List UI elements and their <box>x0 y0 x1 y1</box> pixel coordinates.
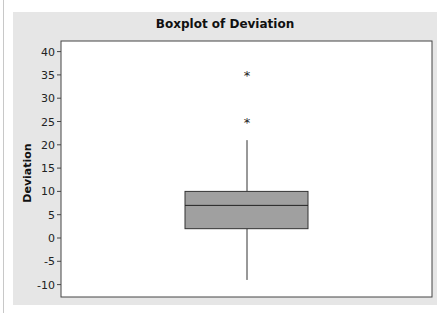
outlier-marker: * <box>244 115 251 130</box>
y-tick-label: 20 <box>41 139 55 152</box>
y-tick-label: 40 <box>41 46 55 59</box>
y-tick-label: 25 <box>41 116 55 129</box>
y-tick-label: -10 <box>37 279 55 292</box>
boxplot-chart: 4035302520151050-5-10 ** <box>0 0 444 313</box>
y-tick-label: -5 <box>44 255 55 268</box>
y-axis: 4035302520151050-5-10 <box>37 46 61 292</box>
y-tick-label: 10 <box>41 185 55 198</box>
outlier-marker: * <box>244 68 251 83</box>
y-tick-label: 5 <box>48 209 55 222</box>
y-tick-label: 35 <box>41 69 55 82</box>
y-tick-label: 0 <box>48 232 55 245</box>
iqr-box <box>185 191 308 228</box>
y-tick-label: 30 <box>41 92 55 105</box>
y-tick-label: 15 <box>41 162 55 175</box>
